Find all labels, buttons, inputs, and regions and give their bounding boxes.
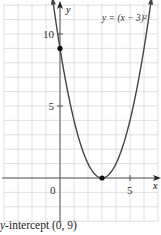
svg-text:0: 0	[50, 184, 56, 196]
data-point	[57, 46, 62, 51]
data-point	[99, 175, 104, 180]
svg-text:10: 10	[43, 28, 55, 40]
parabola-chart: 05510 y = (x − 3)² x y	[0, 0, 161, 222]
equation-label: y = (x − 3)²	[101, 13, 147, 24]
caption-text: -intercept (0, 9)	[5, 219, 77, 231]
svg-text:5: 5	[127, 184, 133, 196]
grid-lines	[4, 3, 158, 222]
svg-text:5: 5	[49, 100, 55, 112]
x-axis-label: x	[152, 180, 158, 191]
y-axis-label: y	[65, 4, 71, 15]
y-intercept-caption: y-intercept (0, 9)	[0, 219, 77, 231]
